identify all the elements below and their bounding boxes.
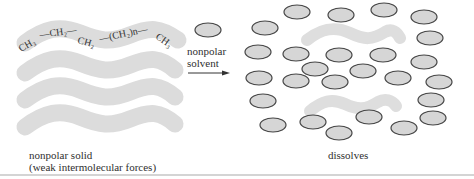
hydrocarbon-chain: [25, 86, 175, 100]
reaction-arrow: [188, 71, 230, 76]
solid-caption-line1: nonpolar solid: [29, 149, 92, 161]
divider-line: [0, 174, 474, 176]
result-caption: dissolves: [328, 149, 368, 161]
hydrocarbon-chain: [25, 113, 175, 127]
arrow-label-line1: nonpolar: [187, 45, 226, 57]
solid-caption-line2: (weak intermolecular forces): [29, 161, 156, 173]
arrow-label-line2: solvent: [187, 57, 219, 69]
hydrocarbon-chain: [25, 59, 175, 73]
solvent-molecule: [195, 23, 221, 37]
solvent-molecules: [245, 3, 452, 140]
dispersed-chain: [307, 29, 400, 40]
dispersed-chain: [310, 100, 396, 111]
